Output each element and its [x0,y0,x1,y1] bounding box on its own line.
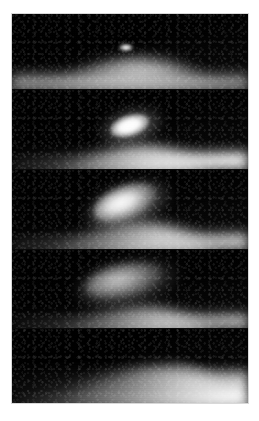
panel-2-scanlines [12,90,248,169]
image-panel-3[interactable]: frame-3 [12,170,248,250]
panel-4-scanlines [12,250,248,328]
image-panel-stack: frame-1 frame-2 fr [12,14,248,403]
image-panel-4[interactable]: frame-4 [12,250,248,329]
panel-1-scanlines [12,14,248,89]
image-panel-5[interactable]: frame-5 [12,329,248,403]
figure-root: frame-1 frame-2 fr [0,0,259,421]
image-panel-2[interactable]: frame-2 [12,90,248,170]
panel-3-scanlines [12,170,248,249]
image-panel-1[interactable]: frame-1 [12,14,248,90]
panel-5-scanlines [12,329,248,403]
